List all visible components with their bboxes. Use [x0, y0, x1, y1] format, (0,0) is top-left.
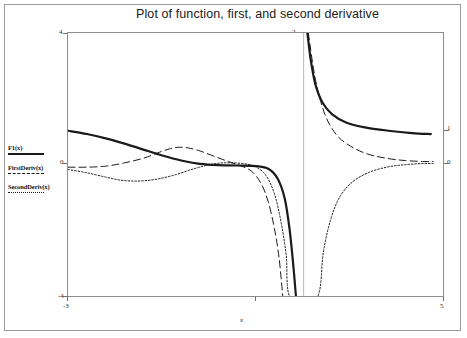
curve-firstderivx-branch-1 [308, 33, 433, 162]
legend-label-secondderiv: SecondDeriv(x) [8, 182, 66, 191]
curve-firstderivx-branch-0 [68, 147, 283, 297]
x-tickmark-right [443, 297, 444, 301]
x-tick-left: -3 [63, 302, 69, 310]
legend-item-firstderiv[interactable]: FirstDeriv(x) [8, 163, 66, 178]
y-tickmark-right-zero [444, 163, 449, 164]
legend-label-firstderiv: FirstDeriv(x) [8, 163, 66, 172]
legend-item-secondderiv[interactable]: SecondDeriv(x) [8, 182, 66, 197]
curve-secondderivx-branch-0 [68, 163, 433, 297]
legend-item-f1[interactable]: F1(x) [8, 143, 66, 159]
y-tickmark-right-one [444, 130, 449, 131]
y-tick-top: 4 [59, 28, 63, 36]
curve-canvas [68, 33, 444, 297]
curve-f1x-branch-0 [68, 131, 296, 297]
plot-figure: Plot of function, first, and second deri… [0, 0, 467, 338]
legend-swatch-solid-icon [8, 153, 44, 159]
x-tick-right: 5 [440, 302, 444, 310]
plot-area[interactable] [67, 32, 444, 297]
y-tick-zero: 0 [60, 158, 64, 166]
series-group [68, 33, 433, 297]
legend: F1(x) FirstDeriv(x) SecondDeriv(x) [8, 143, 66, 201]
page-title: Plot of function, first, and second deri… [60, 7, 455, 21]
legend-swatch-dot-icon [8, 192, 44, 197]
y-tick-right-zero: 0 [447, 158, 451, 166]
x-tickmark-left [67, 297, 68, 301]
x-axis-label: x [240, 316, 243, 324]
legend-label-f1: F1(x) [8, 143, 66, 152]
legend-swatch-dash-icon [8, 173, 44, 178]
x-tickmark-mid [255, 297, 256, 301]
curve-f1x-branch-1 [307, 33, 430, 134]
